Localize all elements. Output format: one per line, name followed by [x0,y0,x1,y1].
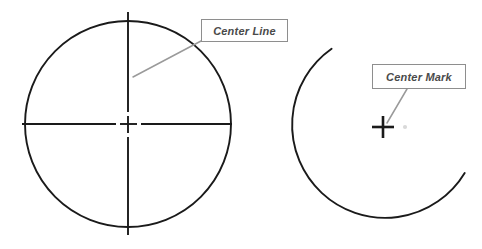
leader-line-center-mark [387,89,407,123]
leader-line-center-line [133,41,201,77]
callout-label-center-mark: Center Mark [372,64,466,89]
callout-label-center-line: Center Line [201,19,288,42]
callout-text-center-line: Center Line [213,25,276,37]
drawing-canvas: Center Line Center Mark [0,0,482,249]
callout-text-center-mark: Center Mark [386,71,452,83]
left-circle-group [22,12,232,235]
faint-dot [403,125,407,129]
